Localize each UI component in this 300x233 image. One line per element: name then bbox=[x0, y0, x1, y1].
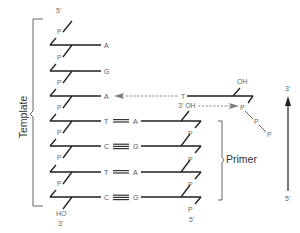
template-bracket: Template bbox=[17, 19, 43, 206]
primer-strand: 3' OH A P G P A P G P 5' bbox=[133, 102, 201, 223]
primer-base: G bbox=[133, 143, 138, 150]
hbond-cg bbox=[113, 144, 129, 150]
phosphate-label: P bbox=[57, 28, 62, 35]
template-base: G bbox=[104, 68, 109, 75]
phosphate-label: P bbox=[57, 180, 62, 187]
template-base: T bbox=[104, 169, 109, 176]
template-base: C bbox=[104, 194, 109, 201]
phosphate-label: P bbox=[57, 79, 62, 86]
phosphate-label: P bbox=[188, 206, 193, 213]
template-3prime-label: 3' bbox=[58, 220, 63, 227]
template-5prime-label: 5' bbox=[56, 7, 61, 14]
template-base: T bbox=[104, 118, 109, 125]
bond-formation-arrow bbox=[198, 103, 239, 109]
incoming-base: T bbox=[181, 93, 186, 100]
pairing-arrow bbox=[114, 93, 178, 99]
primer-base: A bbox=[133, 169, 138, 176]
gamma-phosphate-label: P bbox=[267, 131, 272, 138]
primer-3prime-oh-label: 3' OH bbox=[178, 102, 196, 109]
primer-bracket: Primer bbox=[218, 121, 257, 200]
primer-label: Primer bbox=[226, 153, 257, 165]
direction-arrow: 3' 5' bbox=[285, 85, 291, 202]
template-base: A bbox=[104, 42, 109, 49]
primer-5prime-label: 5' bbox=[189, 216, 194, 223]
primer-base: G bbox=[133, 194, 138, 201]
hydrogen-bonds bbox=[113, 119, 129, 200]
direction-3prime-label: 3' bbox=[285, 85, 290, 92]
template-base: A bbox=[104, 93, 109, 100]
hbond-at bbox=[113, 170, 129, 174]
phosphate-label: P bbox=[57, 154, 62, 161]
hbond-cg bbox=[113, 195, 129, 201]
direction-5prime-label: 5' bbox=[285, 195, 290, 202]
alpha-phosphate-label: P bbox=[240, 104, 245, 111]
hbond-at bbox=[113, 119, 129, 123]
template-label: Template bbox=[17, 96, 29, 139]
primer-base: A bbox=[133, 118, 138, 125]
template-strand: P A P G P A P T P C P T P bbox=[50, 21, 109, 209]
template-base: C bbox=[104, 143, 109, 150]
phosphate-label: P bbox=[57, 129, 62, 136]
phosphate-label: P bbox=[57, 54, 62, 61]
template-ho-label: HO bbox=[56, 210, 67, 217]
dna-replication-diagram: Template 5' P A P G P A P T P bbox=[0, 0, 300, 233]
beta-phosphate-label: P bbox=[254, 118, 259, 125]
phosphate-label: P bbox=[57, 104, 62, 111]
incoming-oh-label: OH bbox=[237, 78, 248, 85]
